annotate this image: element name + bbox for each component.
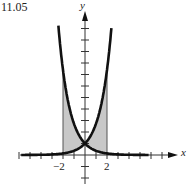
x-axis-arrow-icon (168, 152, 178, 158)
y-axis-arrow-icon (82, 11, 88, 21)
axes (19, 11, 178, 184)
plot-area (0, 0, 188, 190)
